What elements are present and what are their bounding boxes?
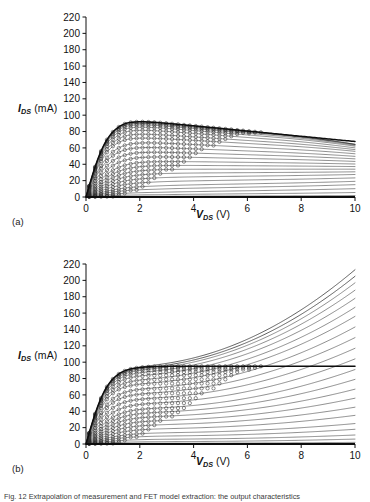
measured-data-point [176,370,179,373]
measured-data-point [165,382,168,385]
measured-data-point [165,387,168,390]
y-tick-label: 120 [63,340,80,351]
y-tick-label: 180 [63,44,80,55]
x-tick-label: 0 [83,450,89,461]
x-tick-label: 8 [298,450,304,461]
y-tick-label: 220 [63,259,80,270]
x-tick-label: 8 [298,203,304,214]
y-tick-label: 120 [63,93,80,104]
x-tick-label: 10 [349,203,361,214]
measured-data-point [218,378,221,381]
measured-data-point [159,407,162,410]
measured-data-point [206,387,209,390]
measured-data-point [194,392,197,395]
measured-data-point [200,378,203,381]
y-tick-label: 140 [63,324,80,335]
measured-data-point [182,401,185,404]
measured-data-point [176,397,179,400]
measured-data-point [170,397,173,400]
y-tick-label: 220 [63,12,80,23]
measured-data-point [230,370,233,373]
measured-data-point [147,378,150,381]
measured-data-point [176,402,179,405]
measured-data-point [176,392,179,395]
measured-data-point [170,411,173,414]
measured-markers [88,365,263,446]
measured-data-point [188,397,191,400]
panel-tag-a: (a) [12,216,24,227]
measured-data-point [212,374,215,377]
measured-data-point [182,392,185,395]
measured-data-point [165,392,168,395]
measured-data-point [212,382,215,385]
x-tick-label: 6 [245,203,251,214]
measured-data-point [147,387,150,390]
chart-panel-b: 0204060801001201401601802002200246810 ID… [0,251,370,502]
model-curve [86,270,355,444]
measured-data-point [194,378,197,381]
measured-data-point [182,406,185,409]
measured-data-point [194,397,197,400]
measured-data-point [153,387,156,390]
measured-data-point [212,387,215,390]
model-curve [86,327,355,444]
measured-data-point [182,387,185,390]
measured-data-point [159,402,162,405]
measured-data-point [176,382,179,385]
chart-panel-a: 0204060801001201401601802002200246810 ID… [0,0,370,251]
y-tick-label: 140 [63,77,80,88]
panel-tag-b: (b) [12,463,24,474]
x-tick-label: 2 [137,203,143,214]
measured-data-point [176,378,179,381]
measured-data-point [170,382,173,385]
measured-data-point [165,411,168,414]
x-axis-label-b: VDS (V) [196,455,230,467]
measured-data-point [147,392,150,395]
figure-output-characteristics: 0204060801001201401601802002200246810 ID… [0,0,370,502]
y-tick-label: 20 [69,175,81,186]
measured-data-point [147,371,150,374]
y-tick-label: 60 [69,390,81,401]
y-tick-label: 200 [63,275,80,286]
measured-data-point [170,392,173,395]
y-tick-label: 180 [63,291,80,302]
y-tick-label: 100 [63,357,80,368]
measured-data-point [218,374,221,377]
measured-data-point [188,370,191,373]
measured-data-point [165,378,168,381]
measured-data-point [194,370,197,373]
measured-data-point [159,382,162,385]
measured-data-point [236,370,239,373]
y-tick-label: 200 [63,28,80,39]
y-tick-label: 0 [74,439,80,450]
x-tick-label: 2 [137,450,143,461]
measured-data-point [153,392,156,395]
x-tick-label: 6 [245,450,251,461]
y-tick-label: 60 [69,143,81,154]
measured-data-point [182,397,185,400]
y-tick-label: 160 [63,61,80,72]
measured-data-point [159,378,162,381]
measured-data-point [182,370,185,373]
model-curve [86,276,355,444]
y-tick-label: 100 [63,110,80,121]
measured-data-point [170,387,173,390]
x-axis-label-a: VDS (V) [196,208,230,220]
measured-data-point [224,374,227,377]
y-tick-label: 0 [74,192,80,203]
y-tick-label: 40 [69,159,81,170]
measured-data-point [147,382,150,385]
y-axis-label-b: IDS (mA) [18,349,57,361]
y-tick-label: 20 [69,422,81,433]
y-tick-label: 40 [69,406,81,417]
measured-data-point [165,407,168,410]
measured-data-point [159,371,162,374]
y-tick-label: 160 [63,308,80,319]
model-curves [86,270,355,444]
figure-caption: Fig. 12 Extrapolation of measurement and… [4,492,366,502]
measured-data-point [188,382,191,385]
measured-data-point [170,415,173,418]
plot-a-canvas: 0204060801001201401601802002200246810 [0,0,370,251]
measured-data-point [206,370,209,373]
measured-data-point [224,378,227,381]
